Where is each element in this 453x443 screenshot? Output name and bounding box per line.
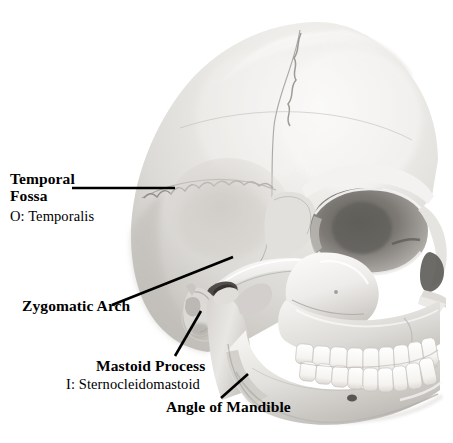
temporal-fossa-muscle-origin: O: Temporalis bbox=[10, 208, 94, 224]
temporal-fossa-line2: Fossa bbox=[10, 187, 94, 204]
mental-foramen bbox=[347, 394, 357, 401]
label-angle-of-mandible: Angle of Mandible bbox=[166, 398, 291, 415]
mastoid-process-muscle-insertion: I: Sternocleidomastoid bbox=[66, 376, 205, 392]
mastoid-process-name: Mastoid Process bbox=[96, 357, 205, 374]
label-zygomatic-arch: Zygomatic Arch bbox=[22, 297, 130, 314]
label-mastoid-process: Mastoid Process I: Sternocleidomastoid bbox=[96, 357, 205, 393]
label-temporal-fossa: Temporal Fossa O: Temporalis bbox=[10, 170, 94, 224]
temporal-fossa-line1: Temporal bbox=[10, 170, 94, 187]
anatomy-figure: Temporal Fossa O: Temporalis Zygomatic A… bbox=[0, 0, 453, 443]
